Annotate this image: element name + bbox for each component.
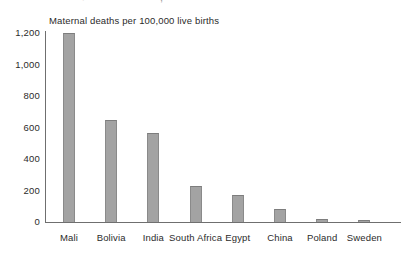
bar-chart-figure: ● , · Maternal deaths per 100,000 live b…	[0, 0, 416, 269]
x-axis-category-labels: MaliBoliviaIndiaSouth AfricaEgyptChinaPo…	[0, 0, 416, 269]
x-tick-label: Sweden	[335, 232, 393, 244]
